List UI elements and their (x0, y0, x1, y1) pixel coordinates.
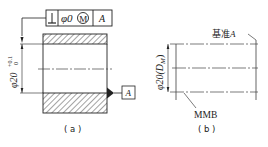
svg-text:φ20: φ20 (8, 72, 19, 88)
caption-b: ( b ) (198, 124, 215, 134)
diameter-dimension: φ20 +0.1 0 (7, 44, 43, 93)
mmb-leader (184, 93, 196, 108)
feature-control-frame: φ0 M A (46, 10, 112, 26)
figure-b: φ20(DM) 基准A MMB ( b ) (154, 28, 258, 134)
lower-section-hatch (43, 93, 107, 113)
leader-line (22, 18, 46, 36)
leader-arrow-icon (21, 37, 24, 43)
mmb-label: MMB (194, 110, 217, 120)
tolerance-value: φ0 (61, 12, 73, 24)
tolerance-diagram: φ0 M A φ20 +0.1 0 (0, 0, 268, 147)
modifier-letter: M (79, 14, 87, 24)
datum-a-label: 基准A (212, 28, 236, 39)
upper-section-hatch (43, 34, 107, 44)
datum-triangle-icon (107, 88, 114, 99)
b-diameter-dimension: φ20(DM) (154, 55, 167, 90)
datum-leader (248, 34, 256, 40)
svg-text:φ20(DM): φ20(DM) (154, 55, 167, 90)
perpendicularity-icon (48, 13, 56, 23)
frame-datum-letter: A (98, 13, 106, 24)
figure-a: φ0 M A φ20 +0.1 0 (7, 10, 135, 134)
svg-text:0: 0 (13, 62, 19, 65)
caption-a: ( a ) (64, 124, 81, 134)
datum-letter: A (125, 88, 132, 98)
